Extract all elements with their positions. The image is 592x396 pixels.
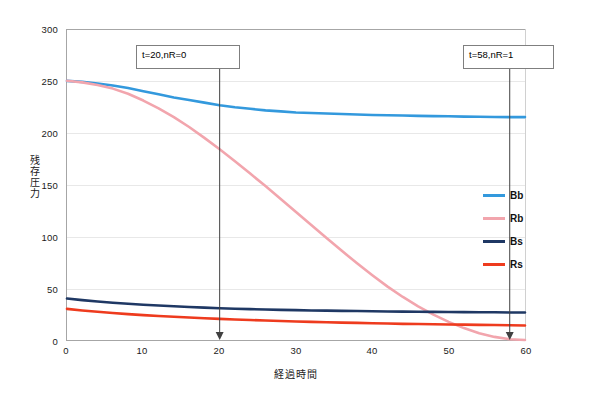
x-tick-label: 0 [46,346,86,356]
series-lines [67,29,525,340]
x-tick-label: 50 [429,346,469,356]
legend-label-bs: Bs [510,237,523,247]
annotation-box-right: t=58,nR=1 [463,45,554,69]
y-tick-label: 300 [0,25,58,35]
legend-swatch-bs [483,240,505,243]
x-tick-label: 30 [276,346,316,356]
annotation-box-left: t=20,nR=0 [136,45,240,69]
plot-area [66,29,526,341]
x-tick-label: 40 [352,346,392,356]
legend: Bb Rb Bs Rs [483,184,543,276]
legend-label-rs: Rs [510,260,523,270]
y-tick-label: 100 [0,233,58,243]
chart-container: 300 250 200 150 100 50 0 残存圧力 0 10 20 30… [0,0,592,396]
x-tick-label: 10 [122,346,162,356]
legend-swatch-bb [483,194,505,197]
annotation-arrowhead-left [216,332,224,340]
legend-swatch-rb [483,217,505,220]
y-tick-label: 50 [0,285,58,295]
series-line-rb [67,81,525,340]
x-tick-label: 20 [199,346,239,356]
legend-label-rb: Rb [510,214,523,224]
legend-item-bb: Bb [483,184,543,207]
legend-item-bs: Bs [483,230,543,253]
y-tick-label: 250 [0,77,58,87]
y-tick-label: 200 [0,129,58,139]
x-tick-label: 60 [506,346,546,356]
series-line-bb [67,81,525,117]
x-axis-title: 経過時間 [0,366,592,381]
series-line-bs [67,299,525,313]
y-axis-title: 残存圧力 [26,155,41,199]
legend-label-bb: Bb [510,191,523,201]
legend-swatch-rs [483,263,505,266]
legend-item-rs: Rs [483,253,543,276]
legend-item-rb: Rb [483,207,543,230]
